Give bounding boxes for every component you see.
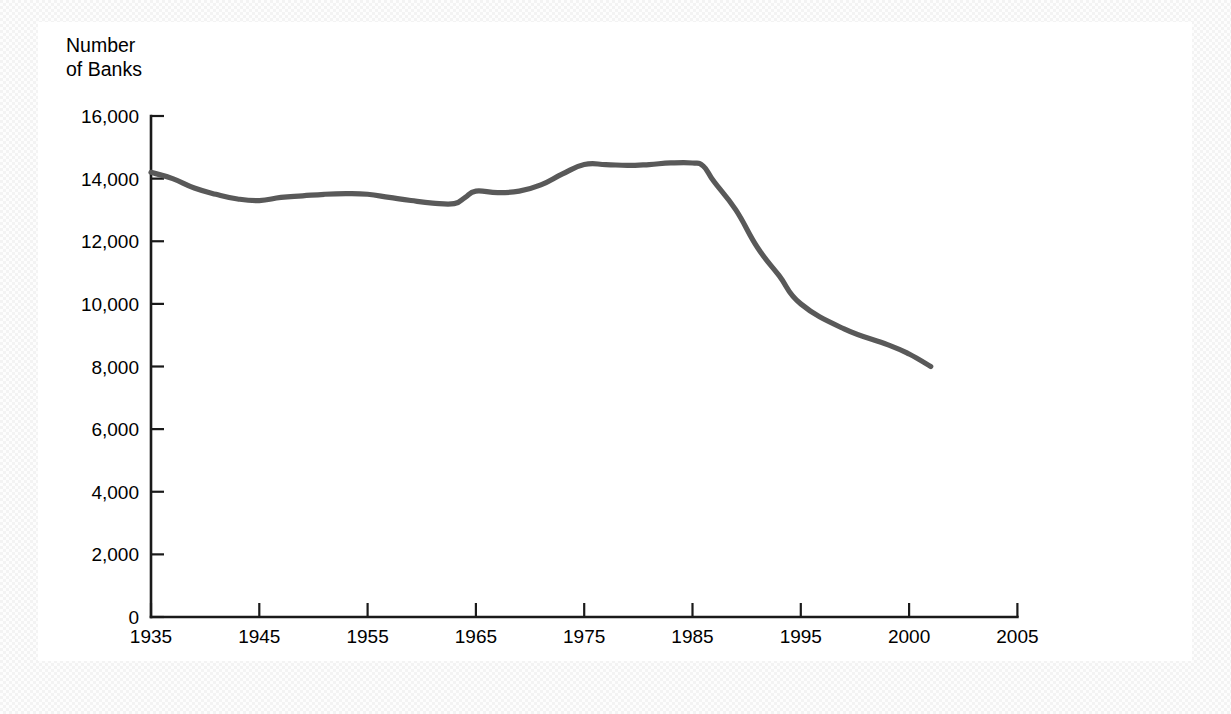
line-chart: Number of Banks 02,0004,0006,0008,00010,… — [38, 22, 1192, 661]
chart-svg: Number of Banks 02,0004,0006,0008,00010,… — [38, 22, 1192, 661]
x-axis-ticks: 193519451955196519751985199520002005 — [130, 603, 1039, 647]
axis-title-group: Number of Banks — [66, 34, 142, 80]
data-series-line — [151, 163, 931, 367]
x-tick-label: 1995 — [780, 626, 822, 647]
x-tick-label: 1955 — [346, 626, 388, 647]
y-axis-title-line1: Number — [66, 34, 136, 56]
y-tick-label: 6,000 — [91, 419, 139, 440]
x-tick-label: 2005 — [996, 626, 1038, 647]
y-tick-label: 10,000 — [81, 294, 139, 315]
x-tick-label: 1985 — [671, 626, 713, 647]
x-tick-label: 1945 — [238, 626, 280, 647]
y-tick-label: 8,000 — [91, 357, 139, 378]
y-tick-label: 2,000 — [91, 544, 139, 565]
y-axis-title-line2: of Banks — [66, 58, 142, 80]
y-tick-label: 12,000 — [81, 231, 139, 252]
x-tick-label: 1965 — [455, 626, 497, 647]
x-tick-label: 1935 — [130, 626, 172, 647]
y-tick-label: 0 — [128, 607, 139, 628]
x-tick-label: 1975 — [563, 626, 605, 647]
y-tick-label: 16,000 — [81, 106, 139, 127]
x-tick-label: 2000 — [888, 626, 930, 647]
y-tick-label: 4,000 — [91, 482, 139, 503]
y-tick-label: 14,000 — [81, 169, 139, 190]
figure-card: Number of Banks 02,0004,0006,0008,00010,… — [38, 22, 1192, 661]
